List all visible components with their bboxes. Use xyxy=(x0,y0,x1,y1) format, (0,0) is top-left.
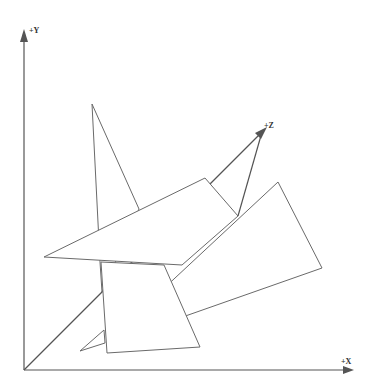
y-axis-arrow-icon xyxy=(20,29,28,42)
3d-planes-diagram: +Y +X +Z xyxy=(0,0,369,390)
x-axis: +X xyxy=(24,357,354,374)
y-axis-label: +Y xyxy=(29,26,40,35)
x-axis-arrow-icon xyxy=(343,366,354,374)
z-axis-label: +Z xyxy=(264,121,274,130)
y-axis: +Y xyxy=(20,26,40,370)
small-wedge xyxy=(80,330,105,351)
x-axis-label: +X xyxy=(341,357,352,366)
